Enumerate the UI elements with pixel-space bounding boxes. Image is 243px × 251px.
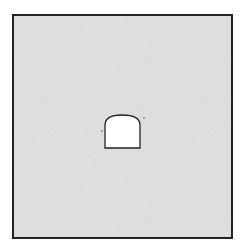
tunnel-opening bbox=[105, 115, 140, 148]
tunnel-diagram bbox=[0, 0, 243, 251]
diagram-canvas bbox=[0, 0, 243, 251]
tunnel-mark-right bbox=[143, 117, 145, 119]
tunnel-mark-left bbox=[101, 130, 103, 132]
